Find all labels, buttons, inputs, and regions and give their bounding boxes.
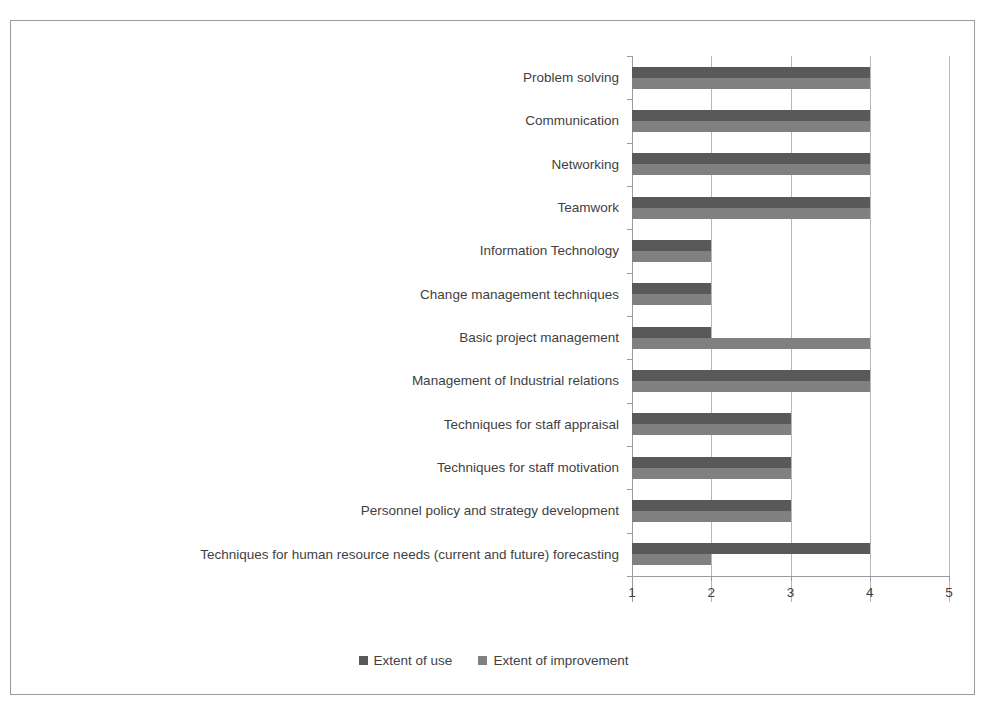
legend-item[interactable]: Extent of improvement (478, 653, 628, 668)
x-tick-4 (870, 576, 871, 581)
category-tick (627, 316, 632, 317)
category-label: Information Technology (480, 229, 619, 272)
chart-figure: Problem solvingCommunicationNetworkingTe… (10, 20, 975, 695)
x-tick-2 (711, 576, 712, 581)
bar-group (632, 143, 949, 186)
bar-extent-of-improvement (632, 468, 791, 479)
category-label: Personnel policy and strategy developmen… (361, 489, 619, 532)
category-tick (627, 273, 632, 274)
bar-extent-of-use (632, 413, 791, 424)
bar-group (632, 186, 949, 229)
category-label: Management of Industrial relations (412, 359, 619, 402)
bar-extent-of-use (632, 197, 870, 208)
category-tick (627, 533, 632, 534)
x-tick-label: 1 (617, 585, 647, 600)
x-tick-3 (791, 576, 792, 581)
category-tick (627, 56, 632, 57)
category-label: Basic project management (459, 316, 619, 359)
category-tick (627, 403, 632, 404)
legend-swatch-icon (478, 656, 487, 665)
legend-item[interactable]: Extent of use (359, 653, 453, 668)
category-tick (627, 99, 632, 100)
bar-extent-of-improvement (632, 554, 711, 565)
chart-plot-area (632, 56, 949, 576)
bar-extent-of-improvement (632, 424, 791, 435)
bar-extent-of-use (632, 543, 870, 554)
legend-label: Extent of improvement (493, 653, 628, 668)
bar-extent-of-use (632, 153, 870, 164)
bar-extent-of-improvement (632, 381, 870, 392)
legend-swatch-icon (359, 656, 368, 665)
category-label: Techniques for staff appraisal (444, 403, 619, 446)
x-tick-5 (949, 576, 950, 581)
bar-group (632, 533, 949, 576)
category-tick (627, 489, 632, 490)
bar-extent-of-improvement (632, 338, 870, 349)
bar-extent-of-use (632, 370, 870, 381)
category-tick (627, 446, 632, 447)
category-axis-labels: Problem solvingCommunicationNetworkingTe… (31, 56, 627, 576)
bar-group (632, 446, 949, 489)
category-label: Networking (551, 143, 619, 186)
bar-extent-of-use (632, 283, 711, 294)
category-label: Teamwork (557, 186, 619, 229)
category-label: Change management techniques (420, 273, 619, 316)
bar-group (632, 229, 949, 272)
bar-extent-of-use (632, 457, 791, 468)
bar-extent-of-use (632, 67, 870, 78)
category-label: Techniques for staff motivation (437, 446, 619, 489)
legend-label: Extent of use (374, 653, 453, 668)
bar-extent-of-improvement (632, 294, 711, 305)
category-tick (627, 186, 632, 187)
bar-extent-of-use (632, 240, 711, 251)
bar-extent-of-use (632, 500, 791, 511)
category-tick (627, 229, 632, 230)
bar-group (632, 489, 949, 532)
category-label: Techniques for human resource needs (cur… (200, 533, 619, 576)
bar-extent-of-improvement (632, 208, 870, 219)
bar-extent-of-improvement (632, 251, 711, 262)
bar-group (632, 99, 949, 142)
x-tick-label: 2 (696, 585, 726, 600)
bar-group (632, 403, 949, 446)
bar-extent-of-improvement (632, 121, 870, 132)
bar-extent-of-improvement (632, 78, 870, 89)
chart-legend: Extent of useExtent of improvement (11, 653, 976, 668)
x-tick-1 (632, 576, 633, 581)
category-label: Problem solving (523, 56, 619, 99)
bar-group (632, 316, 949, 359)
bar-group (632, 359, 949, 402)
bar-extent-of-improvement (632, 511, 791, 522)
x-tick-label: 5 (934, 585, 964, 600)
x-tick-label: 3 (776, 585, 806, 600)
category-label: Communication (525, 99, 619, 142)
gridline-5 (949, 56, 950, 602)
bar-extent-of-use (632, 327, 711, 338)
bar-group (632, 273, 949, 316)
category-tick (627, 143, 632, 144)
bar-extent-of-improvement (632, 164, 870, 175)
x-tick-label: 4 (855, 585, 885, 600)
bar-group (632, 56, 949, 99)
bar-extent-of-use (632, 110, 870, 121)
bar-rows (632, 56, 949, 576)
category-tick (627, 359, 632, 360)
